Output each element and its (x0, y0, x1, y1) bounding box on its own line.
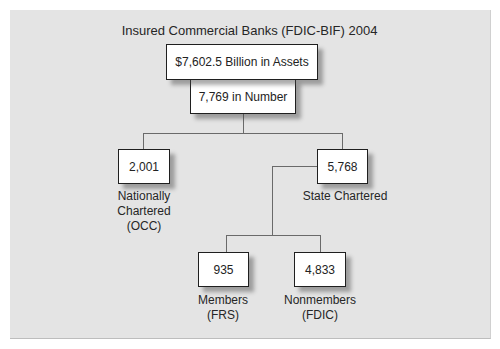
nonmembers-box: 4,833 (294, 252, 346, 287)
state-label: State Chartered (292, 189, 398, 204)
connector-to-state (342, 133, 343, 149)
connector-root-down (243, 113, 244, 133)
members-box: 935 (198, 252, 249, 287)
connector-state-left (272, 166, 317, 167)
connector-level2-horizontal (226, 235, 321, 236)
national-box: 2,001 (118, 149, 170, 184)
members-label: Members (FRS) (183, 293, 263, 323)
connector-to-nonmembers (320, 235, 321, 252)
root-number-text: 7,769 in Number (199, 90, 288, 104)
national-label: Nationally Chartered (OCC) (103, 189, 185, 234)
diagram-title: Insured Commercial Banks (FDIC-BIF) 2004 (0, 23, 500, 38)
state-value: 5,768 (327, 160, 357, 174)
nonmembers-label-line: (FDIC) (275, 308, 365, 323)
connector-to-members (226, 235, 227, 252)
connector-level1-horizontal (143, 133, 343, 134)
root-assets-box: $7,602.5 Billion in Assets (166, 44, 318, 80)
state-label-line: State Chartered (292, 189, 398, 204)
nonmembers-value: 4,833 (305, 263, 335, 277)
nonmembers-label: Nonmembers (FDIC) (275, 293, 365, 323)
national-label-line: Nationally (103, 189, 185, 204)
connector-state-down (272, 166, 273, 235)
nonmembers-label-line: Nonmembers (275, 293, 365, 308)
root-assets-text: $7,602.5 Billion in Assets (175, 55, 308, 69)
root-number-box: 7,769 in Number (190, 79, 296, 114)
members-label-line: (FRS) (183, 308, 263, 323)
national-label-line: (OCC) (103, 219, 185, 234)
state-box: 5,768 (317, 149, 368, 184)
national-value: 2,001 (129, 160, 159, 174)
members-label-line: Members (183, 293, 263, 308)
national-label-line: Chartered (103, 204, 185, 219)
connector-to-national (143, 133, 144, 149)
members-value: 935 (213, 263, 233, 277)
